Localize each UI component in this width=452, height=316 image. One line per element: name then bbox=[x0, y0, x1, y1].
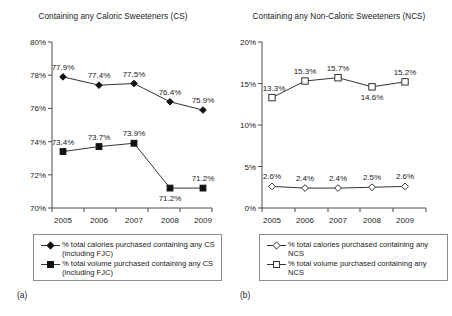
x-tick-label: 2005 bbox=[54, 216, 72, 225]
y-tick-label: 15% bbox=[240, 80, 256, 89]
chart-panel-caloric-sweeteners: Containing any Caloric Sweeteners (CS) 7… bbox=[0, 0, 226, 316]
legend-label-b-volume: % total volume purchased containing any … bbox=[288, 259, 443, 278]
data-point-label: 75.9% bbox=[192, 96, 215, 105]
x-tick-label: 2007 bbox=[329, 216, 347, 225]
data-point-label: 76.4% bbox=[159, 88, 182, 97]
plot-area-a: 70%72%74%76%78%80%2005200620072008200977… bbox=[0, 0, 226, 232]
legend-b: % total calories purchased containing an… bbox=[259, 234, 448, 281]
data-point-label: 2.6% bbox=[263, 172, 281, 181]
data-point-label: 15.7% bbox=[327, 64, 350, 73]
x-tick-label: 2008 bbox=[363, 216, 381, 225]
legend-entry-a-calories: % total calories purchased containing an… bbox=[40, 240, 217, 259]
y-tick-label: 72% bbox=[30, 171, 46, 180]
data-point-label: 15.3% bbox=[294, 67, 317, 76]
panel-letter-a: (a) bbox=[17, 290, 27, 300]
data-point-label: 2.6% bbox=[396, 172, 414, 181]
data-point-marker bbox=[131, 80, 138, 87]
legend-key-filled-square-icon bbox=[40, 259, 61, 270]
data-point-marker bbox=[269, 94, 275, 100]
data-point-marker bbox=[302, 185, 309, 192]
panel-letter-b: (b) bbox=[240, 290, 250, 300]
y-tick-label: 74% bbox=[30, 138, 46, 147]
legend-entry-a-volume: % total volume purchased containing any … bbox=[40, 259, 217, 278]
y-tick-label: 78% bbox=[30, 71, 46, 80]
data-point-marker bbox=[200, 107, 207, 114]
legend-key-open-square-icon bbox=[266, 259, 287, 270]
x-tick-label: 2007 bbox=[125, 216, 143, 225]
legend-key-filled-diamond-icon bbox=[40, 240, 61, 251]
data-point-marker bbox=[402, 79, 408, 85]
figure-container: Containing any Caloric Sweeteners (CS) 7… bbox=[0, 0, 452, 316]
legend-a: % total calories purchased containing an… bbox=[33, 234, 222, 281]
data-point-label: 77.4% bbox=[88, 71, 111, 80]
data-point-marker bbox=[335, 185, 342, 192]
series-line-1 bbox=[63, 143, 203, 188]
data-point-marker bbox=[200, 185, 206, 191]
data-point-marker bbox=[402, 183, 409, 190]
data-point-marker bbox=[269, 183, 276, 190]
legend-label-a-calories: % total calories purchased containing an… bbox=[62, 240, 217, 259]
y-tick-label: 10% bbox=[240, 121, 256, 130]
data-point-marker bbox=[167, 185, 173, 191]
data-point-label: 77.5% bbox=[123, 70, 146, 79]
data-point-marker bbox=[96, 82, 103, 89]
y-tick-label: 0% bbox=[244, 204, 256, 213]
data-point-label: 13.3% bbox=[263, 84, 286, 93]
data-point-marker bbox=[167, 98, 174, 105]
legend-entry-b-volume: % total volume purchased containing any … bbox=[266, 259, 443, 278]
y-tick-label: 80% bbox=[30, 38, 46, 47]
legend-entry-b-calories: % total calories purchased containing an… bbox=[266, 240, 443, 259]
data-point-marker bbox=[369, 84, 375, 90]
x-tick-label: 2008 bbox=[161, 216, 179, 225]
data-point-label: 73.9% bbox=[123, 129, 146, 138]
y-tick-label: 76% bbox=[30, 104, 46, 113]
data-point-marker bbox=[60, 74, 67, 81]
y-tick-label: 20% bbox=[240, 38, 256, 47]
y-tick-label: 70% bbox=[30, 204, 46, 213]
y-tick-label: 5% bbox=[244, 163, 256, 172]
data-point-label: 2.4% bbox=[329, 174, 347, 183]
legend-label-b-calories: % total calories purchased containing an… bbox=[288, 240, 443, 259]
data-point-marker bbox=[302, 78, 308, 84]
x-tick-label: 2009 bbox=[194, 216, 212, 225]
data-point-label: 2.5% bbox=[363, 173, 381, 182]
data-point-marker bbox=[60, 149, 66, 155]
data-point-label: 77.9% bbox=[52, 63, 75, 72]
legend-label-a-volume: % total volume purchased containing any … bbox=[62, 259, 217, 278]
data-point-label: 14.6% bbox=[361, 93, 384, 102]
data-point-label: 73.7% bbox=[88, 133, 111, 142]
data-point-marker bbox=[96, 144, 102, 150]
data-point-label: 71.2% bbox=[159, 194, 182, 203]
x-tick-label: 2006 bbox=[296, 216, 314, 225]
data-point-marker bbox=[335, 74, 341, 80]
data-point-label: 73.4% bbox=[52, 138, 75, 147]
legend-key-open-diamond-icon bbox=[266, 240, 287, 251]
data-point-marker bbox=[131, 140, 137, 146]
data-point-marker bbox=[369, 184, 376, 191]
x-tick-label: 2006 bbox=[90, 216, 108, 225]
data-point-label: 71.2% bbox=[192, 174, 215, 183]
plot-area-b: 0%5%10%15%20%200520062007200820092.6%2.4… bbox=[226, 0, 452, 232]
x-tick-label: 2009 bbox=[396, 216, 414, 225]
data-point-label: 2.4% bbox=[296, 174, 314, 183]
data-point-label: 15.2% bbox=[394, 68, 417, 77]
x-tick-label: 2005 bbox=[263, 216, 281, 225]
